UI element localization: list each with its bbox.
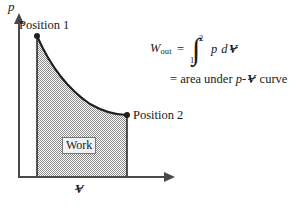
position-1-label: Position 1: [19, 18, 69, 32]
y-axis-line: [18, 22, 20, 178]
position-2-marker: [124, 112, 130, 118]
equals-sign: =: [177, 42, 184, 56]
equation-area-line: = area under p-V curve: [170, 72, 296, 86]
pv-diagram-figure: p V Position 1 Position 2 Work Wout = 2 …: [0, 0, 297, 207]
w-subscript: out: [160, 46, 171, 56]
integrand-expression: p dV: [211, 42, 239, 56]
w-out-term: Wout: [150, 41, 172, 58]
integral-lower-limit: 1: [190, 53, 194, 67]
line2-text-a: area under: [180, 72, 236, 86]
work-area-label: Work: [62, 137, 96, 154]
line2-text-b: curve: [256, 72, 287, 86]
equation-integral-line: Wout = 2 ∫ 1 p dV: [150, 32, 296, 66]
position-1-marker: [34, 33, 40, 39]
work-equation-block: Wout = 2 ∫ 1 p dV = area under p-V curve: [150, 32, 296, 86]
x-axis-arrow-icon: [164, 172, 175, 182]
position-2-label: Position 2: [133, 108, 183, 122]
line2-equals-sign: =: [170, 72, 177, 86]
work-area-fill: [37, 36, 127, 177]
integral-group: 2 ∫ 1: [189, 32, 207, 66]
w-symbol: W: [150, 41, 160, 55]
x-axis-line: [18, 176, 166, 178]
integrand-volume-symbol: V: [228, 42, 239, 56]
volume-symbol: V: [74, 181, 85, 196]
x-axis-label: V: [74, 181, 85, 196]
integrand-p-dv: p d: [211, 42, 228, 56]
y-axis-label: p: [8, 0, 15, 14]
line2-volume-symbol: V: [246, 72, 256, 86]
